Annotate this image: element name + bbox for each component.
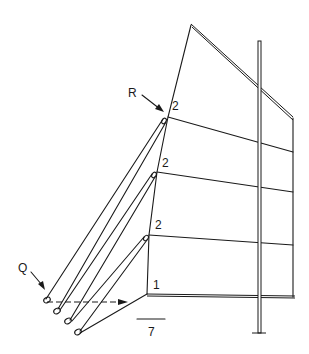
yard [191, 24, 293, 120]
label-tack: 1 [153, 278, 160, 292]
sheet-lower [72, 234, 149, 331]
batten-upper [168, 117, 293, 152]
label-batten-lower: 2 [155, 218, 162, 232]
q-pointer-arrow [31, 272, 45, 290]
sail-diagram: R Q 2 2 2 1 7 [0, 0, 309, 354]
r-pointer-arrow [142, 95, 164, 112]
batten-lower [149, 235, 293, 245]
label-q: Q [18, 261, 27, 275]
dashed-arrow [47, 299, 128, 305]
boom [147, 294, 295, 298]
label-scale: 7 [148, 325, 155, 339]
batten-middle [157, 172, 293, 192]
label-batten-upper: 2 [172, 99, 179, 113]
label-batten-middle: 2 [162, 156, 169, 170]
sail-luff [147, 25, 191, 294]
label-r: R [128, 86, 137, 100]
